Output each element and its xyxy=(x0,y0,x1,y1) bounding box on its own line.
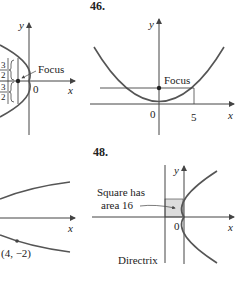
y-axis-label: y xyxy=(173,164,179,176)
focus-point xyxy=(16,79,20,83)
y-axis-label: y xyxy=(148,18,154,30)
origin-label: 0 xyxy=(150,108,156,120)
panel-top-left: 3 2 3 2 Focus y x 0 xyxy=(0,19,75,135)
parabola-upper-branch xyxy=(0,182,70,199)
x-axis-label: x xyxy=(227,109,233,121)
lower-frac-num: 3 xyxy=(1,82,6,92)
point-4-neg2 xyxy=(15,239,19,243)
x-axis-label: x xyxy=(67,84,73,96)
panel-bottom-left: x (4, −2) xyxy=(0,182,75,260)
problem-number-48: 48. xyxy=(93,145,108,159)
panel-bottom-right: 48. Square has area 16 Directrix y x 0 xyxy=(92,145,234,266)
panel-top-right: 46. Focus y x 0 5 xyxy=(90,0,234,135)
upper-brace xyxy=(9,60,14,80)
origin-label: 0 xyxy=(174,220,180,232)
y-axis-label: y xyxy=(18,19,24,31)
origin-label: 0 xyxy=(33,83,39,95)
upper-frac-den: 2 xyxy=(1,70,6,80)
square-label-line1: Square has xyxy=(97,186,145,198)
focus-point xyxy=(157,86,161,90)
x-axis-label: x xyxy=(227,221,233,233)
point-label: (4, −2) xyxy=(1,247,31,260)
directrix-label: Directrix xyxy=(118,254,158,266)
figure-canvas: 3 2 3 2 Focus y x 0 46. Focus y x 0 5 x … xyxy=(0,0,246,287)
focus-label: Focus xyxy=(38,63,64,75)
lower-frac-den: 2 xyxy=(1,92,6,102)
focus-label: Focus xyxy=(164,74,190,86)
upper-frac-num: 3 xyxy=(1,60,6,70)
problem-number-46: 46. xyxy=(90,0,105,13)
square-label-line2: area 16 xyxy=(101,199,134,211)
x-axis-label: x xyxy=(67,222,73,234)
tick-label-5: 5 xyxy=(191,111,197,123)
lower-brace xyxy=(9,82,14,102)
